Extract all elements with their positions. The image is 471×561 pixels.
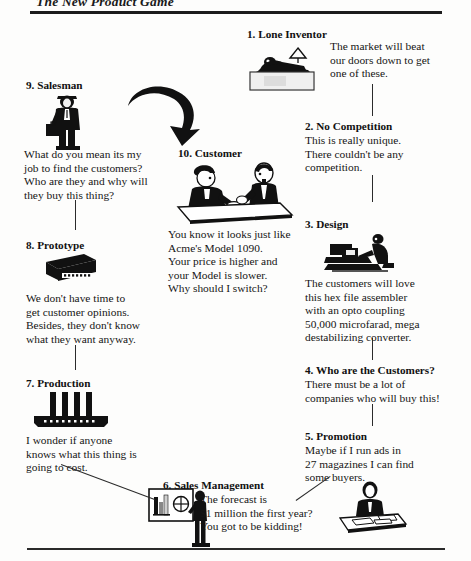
footer-rule: [27, 548, 445, 550]
quote-who-are-the-customers: There must be a lot of companies who wil…: [305, 378, 470, 405]
quote-sales-management: The forecast is $1 million the first yea…: [200, 493, 360, 534]
connector-design-to-customers: [372, 338, 373, 360]
node-lone-inventor: 1. Lone Inventor: [247, 28, 327, 41]
node-title-who-are-the-customers: 4. Who are the Customers?: [305, 364, 470, 377]
node-title-lone-inventor: 1. Lone Inventor: [247, 28, 327, 41]
new-product-game-figure: The New Product Game 1. Lone Inventor Th…: [0, 0, 471, 561]
prototype-box-icon: [38, 252, 100, 286]
node-production: 7. Production: [26, 377, 90, 390]
quote-production: I wonder if anyone knows what this thing…: [26, 434, 191, 475]
quote-lone-inventor: The market will beat our doors down to g…: [330, 40, 450, 81]
page-running-head: The New Product Game: [36, 0, 174, 10]
header-rule: [30, 11, 442, 14]
node-title-no-competition: 2. No Competition: [305, 120, 455, 133]
connector-inventor-to-no-competition: [372, 84, 373, 116]
connector-customers-to-promotion: [372, 404, 373, 426]
quote-promotion: Maybe if I run ads in 27 magazines I can…: [305, 444, 465, 485]
node-title-sales-management: 6. Sales Management: [163, 479, 264, 492]
two-people-at-table-icon: [176, 159, 296, 227]
node-title-production: 7. Production: [26, 377, 90, 390]
quote-no-competition: This is really unique. There couldn't be…: [305, 134, 455, 175]
inventor-at-desk-icon: [248, 44, 326, 92]
node-no-competition: 2. No Competition This is really unique.…: [305, 120, 455, 175]
connector-no-competition-to-design: [372, 175, 373, 202]
node-prototype: 8. Prototype: [26, 239, 84, 252]
node-sales-management: 6. Sales Management: [163, 479, 264, 492]
node-who-are-the-customers: 4. Who are the Customers? There must be …: [305, 364, 470, 405]
node-title-promotion: 5. Promotion: [305, 430, 465, 443]
connector-prototype-to-salesman: [75, 200, 76, 230]
running-head-text: The New Product Game: [36, 0, 174, 9]
salesman-with-briefcase-icon: [44, 90, 94, 152]
quote-salesman: What do you mean its my job to find the …: [24, 148, 194, 202]
factory-machine-icon: [28, 390, 114, 430]
quote-prototype: We don't have time to get customer opini…: [26, 292, 196, 346]
connector-production-to-prototype: [75, 345, 76, 370]
node-title-prototype: 8. Prototype: [26, 239, 84, 252]
curved-arrow-salesman-to-customer-icon: [126, 82, 210, 148]
quote-customer: You know it looks just like Acme's Model…: [168, 228, 343, 296]
